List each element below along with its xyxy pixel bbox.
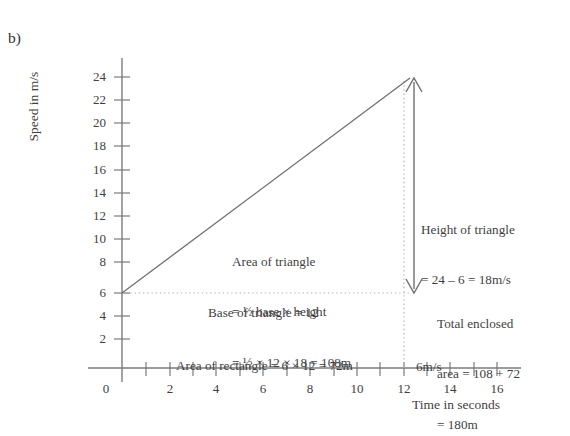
y-tick-label: 16 [76,162,106,179]
annotation-total-area-line1: Total enclosed [437,316,520,333]
annotation-total-area-line3: = 180m [437,417,520,434]
y-tick-label: 20 [76,115,106,132]
y-tick-label: 14 [76,185,106,202]
x-tick-label: 0 [93,381,119,398]
y-tick-label: 22 [76,92,106,109]
y-tick-label: 24 [76,69,106,86]
annotation-rectangle-area-text: Area of rectangle = 6 × 12 = 72m [176,358,353,375]
annotation-total-area-line2: area = 108 + 72 [437,366,520,383]
annotation-height-line1: Height of triangle [421,222,515,239]
annotation-base-text: Base of triangle = 12 [208,305,319,322]
y-tick-label: 8 [76,254,106,271]
annotation-triangle-area-line1: Area of triangle [232,254,351,271]
y-tick-label: 6 [76,285,106,302]
speed-time-graph-figure: b) [0,0,570,436]
y-tick-label: 2 [76,331,106,348]
y-tick-label: 12 [76,208,106,225]
annotation-initial-speed: 6m/s [416,325,442,409]
y-tick-label: 10 [76,231,106,248]
height-arrow [406,78,422,293]
annotation-rectangle-area: Area of rectangle = 6 × 12 = 72m [176,324,353,408]
annotation-initial-speed-text: 6m/s [416,359,442,376]
y-tick-label: 18 [76,138,106,155]
y-tick-label: 4 [76,308,106,325]
y-axis-title: Speed in m/s [25,47,42,167]
annotation-total-area: Total enclosed area = 108 + 72 = 180m [437,282,520,436]
